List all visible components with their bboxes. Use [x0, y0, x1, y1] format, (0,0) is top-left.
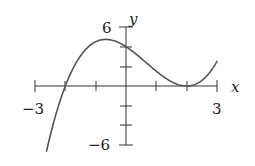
x-min-label: −3	[22, 100, 44, 118]
y-max-label: 6	[102, 19, 112, 37]
y-axis-label: y	[128, 10, 138, 28]
function-curve	[47, 39, 217, 151]
x-axis-label: x	[231, 78, 240, 96]
y-min-label: −6	[88, 136, 110, 154]
chart: −3 3 6 −6 y x	[0, 0, 255, 166]
x-max-label: 3	[212, 100, 222, 118]
